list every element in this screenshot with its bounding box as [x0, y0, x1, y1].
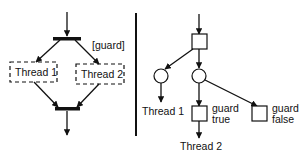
- fork-bar: [53, 37, 81, 41]
- guard-true-transition-square: [192, 106, 207, 121]
- thread2-label: Thread 2: [81, 68, 123, 80]
- guard-place-circle: [192, 69, 206, 83]
- right-thread1-label: Thread 1: [142, 105, 184, 117]
- thread1-place-circle: [154, 69, 168, 83]
- guard-label: [guard]: [92, 39, 125, 51]
- left-activity-diagram: [guard] Thread 1 Thread 2: [10, 12, 125, 135]
- join-bar: [55, 107, 80, 111]
- fork-to-left-place-arrow: [165, 49, 193, 69]
- thread2-to-join-arrow: [77, 84, 99, 107]
- guard-true-label-line2: true: [212, 113, 230, 125]
- guard-false-label-line2: false: [272, 113, 294, 125]
- guard-false-transition-square: [252, 106, 267, 121]
- fork-to-thread1-arrow: [36, 40, 60, 62]
- fork-transition-square: [192, 34, 207, 49]
- right-thread2-label: Thread 2: [180, 140, 222, 152]
- thread1-label: Thread 1: [15, 66, 57, 78]
- thread1-to-join-arrow: [34, 82, 58, 107]
- right-net-diagram: Thread 1 guard true Thread 2 guard false: [142, 14, 299, 152]
- diagram-canvas: [guard] Thread 1 Thread 2 Thread 1 guard…: [0, 0, 305, 158]
